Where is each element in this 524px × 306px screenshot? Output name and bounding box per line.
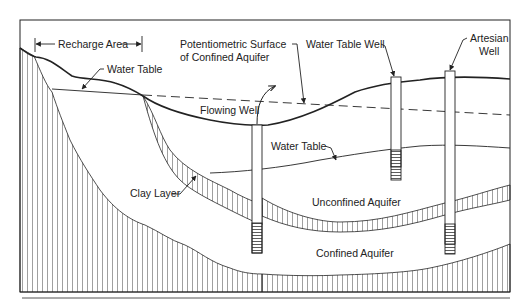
label-clay-layer: Clay Layer	[130, 187, 181, 199]
flowing-well-arrow	[257, 86, 275, 124]
water-table-well-screen	[391, 150, 401, 180]
bedrock-left	[20, 48, 262, 292]
clay-layer-middle	[262, 185, 510, 232]
label-unconfined-aquifer: Unconfined Aquifer	[312, 196, 401, 208]
label-confined-aquifer: Confined Aquifer	[316, 247, 394, 259]
label-artesian-2: Well	[479, 45, 499, 57]
artesian-well-screen	[445, 224, 455, 254]
artesian-well-leader	[450, 38, 467, 70]
artesian-well-casing	[445, 71, 455, 244]
label-potentiometric-1: Potentiometric Surface	[180, 38, 286, 50]
label-recharge-area: Recharge Area	[58, 38, 128, 50]
potentiometric-leader	[292, 44, 304, 103]
label-artesian-1: Artesian	[470, 32, 509, 44]
water-table-line	[52, 89, 143, 95]
flowing-well-screen	[252, 223, 262, 253]
label-flowing-well: Flowing Well	[200, 104, 259, 116]
label-potentiometric-2: of Confined Aquifer	[180, 51, 270, 63]
label-water-table-mid: Water Table	[271, 140, 327, 152]
aquifer-diagram: Recharge Area Water Table Potentiometric…	[0, 0, 524, 306]
label-water-table-well: Water Table Well	[306, 38, 385, 50]
label-water-table-top: Water Table	[107, 63, 163, 75]
